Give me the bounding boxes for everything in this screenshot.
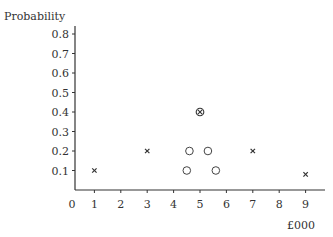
x-axis-title: £000: [287, 219, 315, 232]
x-tick-label: 8: [276, 198, 283, 211]
cross-marker: [251, 149, 255, 153]
x-tick-label: 1: [91, 198, 98, 211]
data-points: [92, 108, 308, 176]
x-tick-label: 5: [197, 198, 204, 211]
x-tick-label: 3: [144, 198, 151, 211]
y-tick-label: 0.7: [52, 48, 70, 61]
y-axis-title: Probability: [4, 10, 66, 23]
x-tick-label: 0: [69, 198, 76, 211]
cross-marker: [92, 168, 96, 172]
x-tick-label: 4: [170, 198, 177, 211]
circle-marker: [183, 167, 191, 175]
y-tick-label: 0.2: [52, 145, 70, 158]
y-tick-label: 0.1: [52, 165, 70, 178]
circled-cross-marker: [196, 108, 204, 116]
x-tick-label: 2: [117, 198, 124, 211]
y-tick-label: 0.3: [52, 126, 70, 139]
x-axis-ticks: 0123456789: [69, 190, 310, 211]
circle-marker: [186, 147, 194, 155]
y-tick-label: 0.6: [52, 67, 70, 80]
y-tick-label: 0.4: [52, 106, 70, 119]
y-tick-label: 0.5: [52, 87, 70, 100]
x-tick-label: 9: [302, 198, 309, 211]
y-axis-ticks: 0.10.20.30.40.50.60.70.8: [52, 28, 76, 178]
y-tick-label: 0.8: [52, 28, 70, 41]
cross-marker: [145, 149, 149, 153]
x-tick-label: 7: [249, 198, 256, 211]
scatter-chart: Probability 0.10.20.30.40.50.60.70.8 012…: [0, 0, 333, 237]
circle-marker: [212, 167, 220, 175]
x-tick-label: 6: [223, 198, 230, 211]
circle-marker: [204, 147, 212, 155]
cross-marker: [303, 172, 307, 176]
